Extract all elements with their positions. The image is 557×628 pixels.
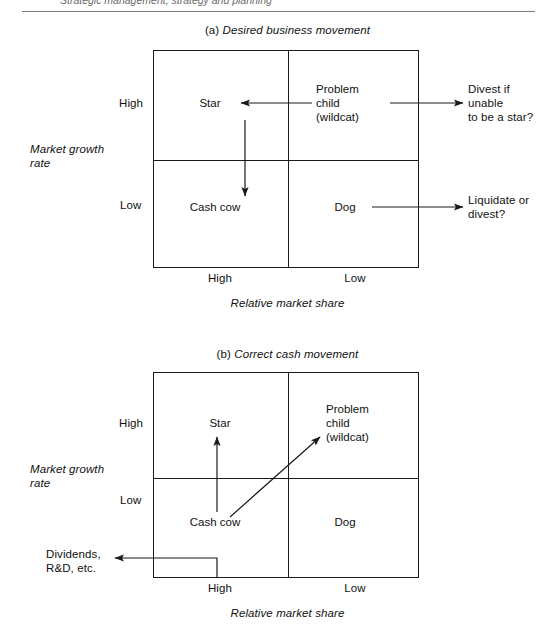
caption-a-text: Desired business movement — [223, 24, 371, 36]
annotation-divest-line3: to be a star? — [468, 111, 533, 125]
annotation-liquidate-line1: Liquidate or — [468, 194, 529, 208]
matrix-b-y-label-low: Low — [120, 494, 141, 508]
matrix-b-frame — [153, 372, 419, 578]
matrix-b-horizontal-divider — [153, 478, 419, 479]
annotation-liquidate-line2: divest? — [468, 208, 505, 222]
caption-b-text: Correct cash movement — [234, 348, 358, 360]
matrix-a-frame — [153, 50, 419, 268]
matrix-a-vertical-divider — [288, 50, 289, 268]
matrix-a-cell-problem-child-line1: Problem — [316, 83, 359, 97]
matrix-b-x-label-low: Low — [325, 582, 385, 596]
matrix-b-y-axis-title-line1: Market growth — [30, 463, 104, 477]
matrix-b-cell-problem-child-line1: Problem — [326, 403, 369, 417]
matrix-b-x-axis-title: Relative market share — [155, 607, 420, 621]
running-header-fragment: Strategic management, strategy and plann… — [60, 0, 480, 6]
matrix-a-x-label-high: High — [190, 272, 250, 286]
matrix-b-cell-cash-cow: Cash cow — [170, 516, 260, 530]
matrix-a-cell-problem-child-line3: (wildcat) — [316, 111, 359, 125]
matrix-b-cell-problem-child-line2: child — [326, 417, 350, 431]
matrix-a-cell-problem-child-line2: child — [316, 97, 340, 111]
matrix-a-y-label-high: High — [119, 97, 143, 111]
matrix-b-y-label-high: High — [119, 417, 143, 431]
caption-a-marker: (a) — [205, 24, 219, 36]
matrix-a-x-axis-title: Relative market share — [155, 297, 420, 311]
matrix-a-cell-cash-cow: Cash cow — [170, 201, 260, 215]
figure-page: Strategic management, strategy and plann… — [0, 0, 557, 628]
matrix-b-vertical-divider — [288, 372, 289, 578]
caption-b-marker: (b) — [217, 348, 231, 360]
matrix-b-x-label-high: High — [190, 582, 250, 596]
matrix-b-y-axis-title-line2: rate — [30, 477, 50, 491]
annotation-dividends-line1: Dividends, — [46, 548, 101, 562]
matrix-a-y-label-low: Low — [120, 199, 141, 213]
matrix-a-x-label-low: Low — [325, 272, 385, 286]
annotation-divest-line1: Divest if — [468, 83, 510, 97]
annotation-dividends-line2: R&D, etc. — [46, 562, 96, 576]
header-rule — [22, 11, 535, 12]
matrix-a-horizontal-divider — [153, 160, 419, 161]
matrix-b-cell-star: Star — [185, 417, 255, 431]
caption-a: (a) Desired business movement — [155, 24, 420, 38]
matrix-a-y-axis-title-line2: rate — [30, 157, 50, 171]
matrix-b-cell-dog: Dog — [320, 516, 370, 530]
matrix-a-y-axis-title-line1: Market growth — [30, 143, 104, 157]
matrix-b-cell-problem-child-line3: (wildcat) — [326, 431, 369, 445]
caption-b: (b) Correct cash movement — [155, 348, 420, 362]
matrix-a-cell-star: Star — [175, 97, 245, 111]
annotation-divest-line2: unable — [468, 97, 503, 111]
matrix-a-cell-dog: Dog — [320, 201, 370, 215]
